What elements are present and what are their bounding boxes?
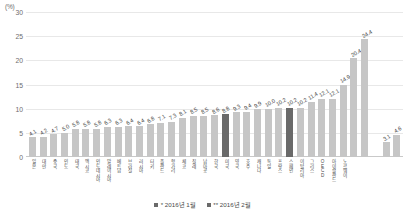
bar-slot: 14.9: [338, 12, 349, 157]
bar-slot: 12.1: [316, 12, 327, 157]
legend-label: ** 2016년 2월: [213, 200, 250, 209]
bar[interactable]: 14.9: [340, 85, 347, 157]
bar[interactable]: 10.2: [286, 108, 293, 157]
bar-swatch-dark-icon: [154, 203, 158, 207]
legend-item[interactable]: * 2016년 1월: [154, 200, 196, 209]
y-axis-tick-label: 0: [19, 154, 23, 161]
x-axis-label-slot: 중국: [48, 158, 59, 198]
bar[interactable]: 5.8: [72, 129, 79, 157]
x-axis-label-slot: 영국: [231, 158, 242, 198]
bar[interactable]: 5.8: [82, 129, 89, 157]
bar[interactable]: 11.4: [308, 102, 315, 157]
x-axis-label-slot: 호주: [241, 158, 252, 198]
bar[interactable]: 24.4: [361, 39, 368, 157]
bar[interactable]: 10.2: [275, 108, 282, 157]
bar[interactable]: 4.7: [50, 134, 57, 157]
x-axis-label-slot: 칠레: [188, 158, 199, 198]
bar[interactable]: 7.1: [157, 123, 164, 157]
bar[interactable]: 8.6: [211, 115, 218, 157]
bar[interactable]: 9.3: [233, 112, 240, 157]
bar[interactable]: 6.4: [136, 126, 143, 157]
x-axis-label: 중국: [52, 158, 57, 168]
y-axis-tick-label: 25: [15, 33, 23, 40]
x-axis-label-slot: 그리스: [306, 158, 317, 198]
bar[interactable]: 9.9: [254, 109, 261, 157]
bar-value-label: 6.3: [103, 117, 112, 126]
bar-value-label: 4.7: [50, 125, 59, 134]
bar-value-label: 5.8: [93, 120, 102, 129]
x-axis-label-slot: 스페인: [284, 158, 295, 198]
x-axis-label-slot: 헝가리: [166, 158, 177, 198]
plot-area: 4.14.24.75.05.85.85.86.36.36.46.46.87.17…: [26, 12, 403, 157]
y-axis-tick-label: 15: [15, 81, 23, 88]
x-axis-label-slot: 태국: [70, 158, 81, 198]
bar[interactable]: 20.4: [350, 58, 357, 157]
bar-value-label: 5.0: [61, 123, 70, 132]
bar-value-label: 6.4: [136, 117, 145, 126]
bar-slot: 9.9: [252, 12, 263, 157]
bar[interactable]: 10.0: [265, 109, 272, 157]
x-axis-label-slot: 프랑스: [274, 158, 285, 198]
x-axis-label: 호주: [244, 158, 249, 168]
bar-slot: 4.1: [27, 12, 38, 157]
bar[interactable]: 5.8: [93, 129, 100, 157]
y-axis-tick-label: 20: [15, 57, 23, 64]
bar[interactable]: 8.1: [179, 118, 186, 157]
bar[interactable]: 4.1: [29, 137, 36, 157]
bar-slot: 5.8: [91, 12, 102, 157]
bar[interactable]: 8.5: [190, 116, 197, 157]
bar[interactable]: 5.0: [61, 133, 68, 157]
bar-slot: 7.3: [166, 12, 177, 157]
x-axis-label: 일본: [30, 158, 35, 168]
x-axis-label-slot: 러시아: [134, 158, 145, 198]
bar-slot: 4.7: [48, 12, 59, 157]
bar-value-label: 8.8: [221, 105, 230, 114]
y-axis-tick-label: 5: [19, 129, 23, 136]
x-axis-label: 남아공: [202, 158, 207, 173]
legend-item[interactable]: ** 2016년 2월: [207, 200, 251, 209]
bar-value-label: 6.3: [114, 117, 123, 126]
bar[interactable]: 12.1: [318, 99, 325, 157]
bar-slot: 11.4: [306, 12, 317, 157]
x-axis-label: 태국: [73, 158, 78, 168]
x-axis-label-slot: 브라질: [123, 158, 134, 198]
x-axis-label: 아이슬란드: [330, 158, 335, 182]
bar[interactable]: 6.4: [125, 126, 132, 157]
x-axis-label-slot: 폴란드: [156, 158, 167, 198]
chart-legend: * 2016년 1월** 2016년 2월: [0, 200, 405, 209]
bar-value-label: 7.1: [157, 113, 166, 122]
bar-value-label: 8.1: [178, 108, 187, 117]
bar-slot: 24.4: [359, 12, 370, 157]
bar[interactable]: 9.4: [243, 112, 250, 157]
x-axis-label: 이탈리아: [298, 158, 303, 177]
bar-slot: 8.8: [220, 12, 231, 157]
bar[interactable]: 6.3: [115, 127, 122, 157]
bar-value-label: 6.4: [125, 117, 134, 126]
x-axis-label-slot: 한국: [209, 158, 220, 198]
bar[interactable]: 4.6: [393, 135, 400, 157]
bar[interactable]: 12.1: [329, 99, 336, 157]
x-axis-label-slot: [370, 158, 381, 198]
bar[interactable]: 7.3: [168, 122, 175, 157]
x-axis-label-slot: 노르웨이: [338, 158, 349, 198]
bar-swatch-dark-icon: [207, 203, 211, 207]
x-axis-label-slot: 아이슬란드: [327, 158, 338, 198]
y-axis-tick-label: 10: [15, 105, 23, 112]
x-axis-label: 체코: [180, 158, 185, 168]
bar[interactable]: 8.5: [200, 116, 207, 157]
x-axis-label: 대만: [41, 158, 46, 168]
bar-value-label: 4.6: [393, 125, 402, 134]
bar[interactable]: 8.8: [222, 114, 229, 157]
bar[interactable]: 6.8: [147, 124, 154, 157]
bar[interactable]: 10.2: [297, 108, 304, 157]
bar-slot: 10.0: [263, 12, 274, 157]
x-axis-label-slot: 체코: [177, 158, 188, 198]
bar-slot: 6.4: [123, 12, 134, 157]
bar[interactable]: 3.1: [383, 142, 390, 157]
bar[interactable]: 6.3: [104, 127, 111, 157]
bar-value-label: 3.1: [382, 133, 391, 142]
x-axis-label: 한국: [212, 158, 217, 168]
x-axis-label-slot: 터키: [145, 158, 156, 198]
bar[interactable]: 4.2: [40, 137, 47, 157]
x-axis-label-slot: 인도: [59, 158, 70, 198]
